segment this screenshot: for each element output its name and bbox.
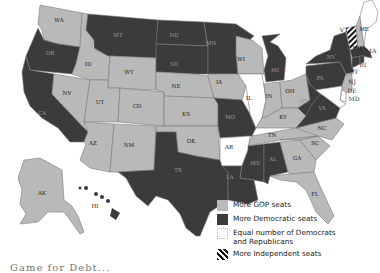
independent-swatch-icon	[217, 249, 228, 260]
equal-swatch-icon	[217, 228, 228, 239]
label-me: ME	[359, 26, 369, 32]
state-nm[interactable]	[110, 124, 156, 172]
label-ct: CT	[350, 68, 359, 75]
label-sc: SC	[311, 140, 319, 146]
label-ut: UT	[96, 99, 105, 105]
label-hi: HI	[92, 203, 99, 209]
legend-label-dem: More Democratic seats	[233, 214, 317, 223]
label-nc: NC	[317, 125, 326, 131]
label-az: AZ	[88, 140, 97, 146]
label-ma: MA	[366, 47, 377, 54]
legend-label-equal: Equal number of Democrats and Republican…	[233, 228, 336, 246]
label-oh: OH	[285, 88, 295, 94]
gop-swatch-icon	[217, 200, 228, 211]
label-ca: CA	[38, 110, 47, 116]
legend-item-gop: More GOP seats	[217, 200, 336, 211]
label-wi: WI	[237, 56, 245, 62]
state-sd[interactable]	[156, 44, 208, 74]
label-vt: VT	[339, 26, 348, 33]
label-ri: RI	[360, 61, 368, 68]
legend-label-equal-line2: and Republicans	[233, 237, 293, 246]
legend-item-equal: Equal number of Democrats and Republican…	[217, 228, 336, 246]
label-la: LA	[226, 174, 235, 180]
label-mi: MI	[271, 67, 279, 73]
label-nv: NV	[63, 90, 73, 96]
label-de: DE	[347, 87, 356, 94]
label-al: AL	[268, 156, 277, 162]
label-mn: MN	[206, 40, 217, 46]
label-il: IL	[246, 95, 252, 101]
label-nm: NM	[124, 142, 135, 148]
state-nd[interactable]	[156, 20, 208, 46]
label-ak: AK	[37, 190, 47, 196]
label-ok: OK	[187, 138, 197, 144]
label-wv: WV	[299, 98, 310, 104]
label-tn: TN	[268, 132, 277, 138]
label-ne: NE	[172, 83, 181, 89]
label-ks: KS	[182, 111, 190, 117]
label-wa: WA	[54, 17, 64, 23]
label-ia: IA	[216, 79, 223, 85]
label-nh: NH	[352, 45, 362, 51]
label-in: IN	[266, 93, 273, 99]
dem-swatch-icon	[217, 214, 228, 225]
label-mt: MT	[113, 32, 123, 38]
legend-label-equal-line1: Equal number of Democrats	[233, 228, 336, 237]
label-nd: ND	[169, 32, 179, 38]
label-tx: TX	[174, 167, 182, 173]
label-co: CO	[133, 103, 142, 109]
label-nj: NJ	[348, 78, 356, 86]
state-ak[interactable]	[18, 158, 84, 234]
label-ga: GA	[293, 155, 302, 161]
state-mi[interactable]	[262, 34, 286, 82]
legend-item-independent: More Independent seats	[217, 249, 336, 260]
label-mo: MO	[225, 114, 236, 120]
label-fl: FL	[311, 191, 319, 197]
label-id: ID	[85, 61, 92, 67]
label-pa: PA	[316, 75, 324, 81]
label-ms: MS	[250, 160, 260, 166]
legend-item-dem: More Democratic seats	[217, 214, 336, 225]
label-md: MD	[349, 95, 360, 102]
label-wy: WY	[124, 69, 134, 75]
state-wi[interactable]	[236, 36, 264, 74]
label-ar: AR	[224, 144, 234, 150]
state-ks[interactable]	[164, 96, 218, 126]
state-ne[interactable]	[156, 72, 214, 98]
legend-label-gop: More GOP seats	[233, 200, 291, 209]
label-sd: SD	[170, 61, 179, 67]
label-or: OR	[46, 50, 56, 56]
state-pa[interactable]	[306, 62, 346, 90]
state-hi[interactable]	[79, 186, 121, 220]
label-ny: NY	[327, 54, 336, 60]
label-va: VA	[317, 105, 327, 111]
legend-label-independent: More Independent seats	[233, 249, 321, 258]
map-legend: More GOP seats More Democratic seats Equ…	[217, 200, 336, 263]
label-ky: KY	[279, 114, 287, 120]
page-caption: Game for Debt...	[10, 262, 110, 273]
